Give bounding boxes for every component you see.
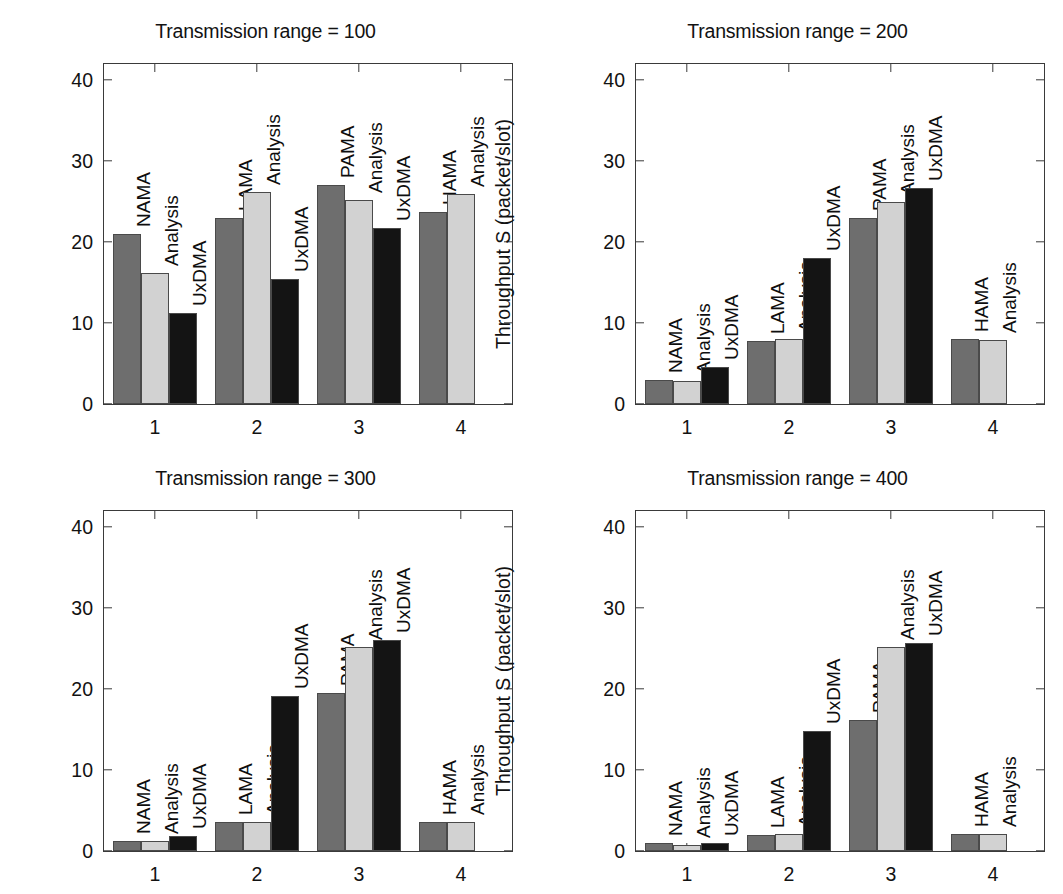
bar <box>673 845 701 851</box>
x-tick-mark-top <box>154 511 155 519</box>
y-tick-label: 10 <box>603 759 625 782</box>
bar <box>345 200 373 404</box>
x-tick-label: 2 <box>252 863 263 886</box>
y-tick-mark-right <box>1036 526 1044 527</box>
bar-annotation: UxDMA <box>292 624 311 689</box>
bar <box>979 834 1007 851</box>
bar <box>979 340 1007 404</box>
y-tick-mark <box>104 526 112 527</box>
y-tick-label: 0 <box>614 393 625 416</box>
y-tick-mark <box>636 79 644 80</box>
panel-title: Transmission range = 400 <box>532 467 1063 490</box>
x-tick-mark-top <box>890 64 891 72</box>
bar-annotation: UxDMA <box>824 659 843 724</box>
y-tick-label: 0 <box>614 840 625 863</box>
y-tick-mark-right <box>1036 322 1044 323</box>
y-tick-mark <box>636 607 644 608</box>
y-tick-label: 0 <box>82 840 93 863</box>
panel-transmission-range-200: Transmission range = 200 Throughput S (p… <box>532 0 1063 447</box>
y-tick-mark <box>104 160 112 161</box>
bar-annotation: Analysis <box>1000 262 1019 333</box>
y-tick-mark <box>104 769 112 770</box>
y-tick-mark-right <box>1036 607 1044 608</box>
bar <box>905 643 933 851</box>
bar <box>271 696 299 851</box>
bar-annotation: UxDMA <box>190 763 209 828</box>
bar <box>373 228 401 404</box>
bar <box>877 202 905 404</box>
bar <box>419 212 447 404</box>
x-tick-label: 3 <box>886 863 897 886</box>
panel-title: Transmission range = 100 <box>0 20 531 43</box>
bar-annotation: Analysis <box>898 124 917 195</box>
panel-transmission-range-100: Transmission range = 100 Throughput S (p… <box>0 0 531 447</box>
y-tick-mark <box>104 403 112 404</box>
x-tick-mark-top <box>686 511 687 519</box>
y-tick-mark-right <box>1036 769 1044 770</box>
x-tick-label: 1 <box>150 416 161 439</box>
y-tick-mark <box>636 850 644 851</box>
y-tick-mark <box>636 241 644 242</box>
bar <box>673 381 701 404</box>
bar <box>169 836 197 851</box>
panel-title: Transmission range = 200 <box>532 20 1063 43</box>
bar <box>243 822 271 851</box>
x-tick-label: 3 <box>354 863 365 886</box>
bar-annotation: UxDMA <box>824 186 843 251</box>
bar <box>215 822 243 851</box>
bar <box>113 234 141 404</box>
bar-annotation: UxDMA <box>722 770 741 835</box>
figure-root: Transmission range = 100 Throughput S (p… <box>0 0 1063 894</box>
x-tick-mark-top <box>154 64 155 72</box>
bar-annotation: Analysis <box>162 764 181 835</box>
bar <box>169 313 197 404</box>
bar <box>951 339 979 404</box>
y-axis-label: Throughput S (packet/slot) <box>492 63 520 405</box>
bar-annotation: UxDMA <box>926 115 945 180</box>
x-tick-mark-top <box>686 64 687 72</box>
bar-annotation: Analysis <box>366 122 385 193</box>
bar <box>951 834 979 851</box>
x-tick-mark-top <box>788 64 789 72</box>
x-tick-label: 1 <box>682 863 693 886</box>
x-tick-mark-top <box>256 64 257 72</box>
bar <box>317 693 345 851</box>
y-tick-mark-right <box>1036 241 1044 242</box>
bar-annotation: LAMA <box>768 282 787 334</box>
y-tick-mark <box>104 241 112 242</box>
plot-area: 0102030401234NAMAAnalysisUxDMALAMAAnalys… <box>103 510 513 852</box>
bar-annotation: Analysis <box>264 114 283 185</box>
y-tick-mark <box>104 688 112 689</box>
y-tick-mark-right <box>1036 160 1044 161</box>
bar <box>271 279 299 404</box>
x-tick-label: 4 <box>456 416 467 439</box>
y-tick-mark <box>104 607 112 608</box>
bar <box>141 841 169 851</box>
x-tick-mark-top <box>256 511 257 519</box>
y-tick-label: 10 <box>71 312 93 335</box>
y-tick-label: 20 <box>71 231 93 254</box>
y-tick-mark-right <box>1036 850 1044 851</box>
bar-annotation: Analysis <box>468 744 487 815</box>
y-tick-mark <box>636 526 644 527</box>
bar <box>701 367 729 404</box>
x-tick-label: 4 <box>456 863 467 886</box>
bar-annotation: UxDMA <box>926 570 945 635</box>
bar <box>645 843 673 851</box>
y-tick-mark <box>636 688 644 689</box>
bar <box>803 731 831 851</box>
bar-annotation: Analysis <box>162 195 181 266</box>
bar-annotation: LAMA <box>236 763 255 815</box>
x-tick-label: 1 <box>682 416 693 439</box>
bar <box>747 835 775 851</box>
y-axis-label: Throughput S (packet/slot) <box>492 510 520 852</box>
plot-area: 0102030401234NAMAAnalysisUxDMALAMAAnalys… <box>635 510 1045 852</box>
y-tick-mark-right <box>1036 688 1044 689</box>
x-tick-label: 4 <box>988 416 999 439</box>
bar <box>141 273 169 404</box>
bar <box>775 339 803 404</box>
bar-annotation: NAMA <box>134 172 153 227</box>
bar <box>373 640 401 851</box>
plot-area: 0102030401234NAMAAnalysisUxDMALAMAAnalys… <box>635 63 1045 405</box>
x-tick-mark-top <box>992 511 993 519</box>
